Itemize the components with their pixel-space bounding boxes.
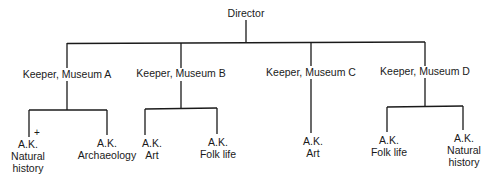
node-ak-natural-history-d: A.K. Natural history (447, 132, 481, 168)
node-ak-archaeology: A.K. Archaeology (78, 137, 136, 161)
leaf-line: A.K. (142, 137, 162, 149)
keeper-d-bar (387, 106, 463, 107)
node-keeper-museum-d: Keeper, Museum D (380, 65, 470, 77)
leaf-line: history (11, 162, 45, 174)
node-keeper-museum-c: Keeper, Museum C (266, 66, 356, 78)
leaf-line: A.K. (78, 137, 136, 149)
leaf-line: Folk life (200, 148, 236, 160)
leaf-line: Art (303, 147, 323, 159)
node-ak-folk-life-d: A.K. Folk life (371, 134, 407, 158)
node-ak-art-b: A.K. Art (142, 137, 162, 161)
node-director: Director (228, 7, 265, 19)
leaf-line: A.K. (371, 134, 407, 146)
leaf-line: Archaeology (78, 149, 136, 161)
node-keeper-museum-b: Keeper, Museum B (136, 67, 225, 79)
leaf-line: Natural (447, 144, 481, 156)
leaf-line: A.K. (447, 132, 481, 144)
keepers-bar (67, 42, 425, 44)
leaf-line: A.K. (200, 136, 236, 148)
node-keeper-museum-a: Keeper, Museum A (23, 68, 112, 80)
leaf-line: history (447, 156, 481, 168)
node-ak-natural-history-a: A.K. Natural history (11, 138, 45, 174)
leaf-line: A.K. (11, 138, 45, 150)
leaf-line: Art (142, 149, 162, 161)
keeper-b-bar (145, 108, 217, 109)
node-ak-art-c: A.K. Art (303, 135, 323, 159)
plus-marker: + (34, 128, 40, 138)
leaf-line: Folk life (371, 146, 407, 158)
connector-lines (0, 0, 492, 178)
leaf-line: A.K. (303, 135, 323, 147)
leaf-line: Natural (11, 150, 45, 162)
node-ak-folk-life-b: A.K. Folk life (200, 136, 236, 160)
